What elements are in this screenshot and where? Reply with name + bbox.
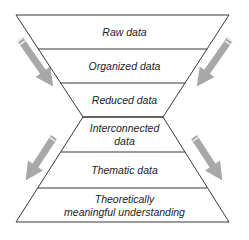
layer-theoretical-line1: Theoretically xyxy=(0,193,249,205)
layer-reduced-data: Reduced data xyxy=(0,94,249,106)
layer-interconnected-data-line2: data xyxy=(0,135,249,147)
layer-raw-data: Raw data xyxy=(0,26,249,38)
layer-organized-data: Organized data xyxy=(0,60,249,72)
layer-theoretical-line2: meaningful understanding xyxy=(0,206,249,218)
layer-interconnected-data-line1: Interconnected xyxy=(0,122,249,134)
layer-thematic-data: Thematic data xyxy=(0,164,249,176)
